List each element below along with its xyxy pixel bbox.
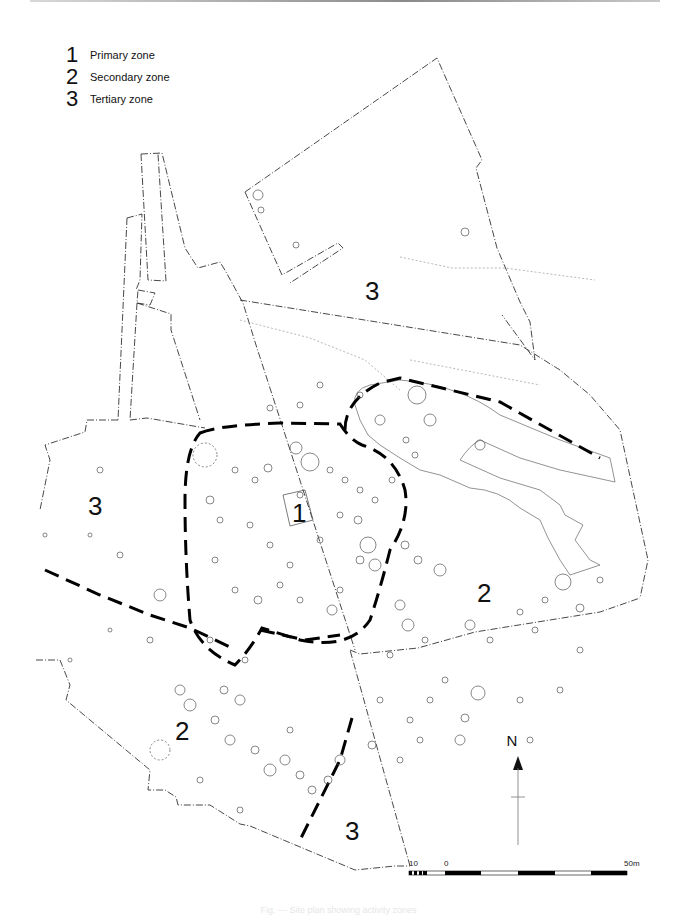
zone-label-3-west: 3	[88, 491, 102, 521]
scale-label-0: 0	[444, 859, 449, 868]
scale-bar: 10 0 50m	[409, 859, 640, 875]
zone-label-2-east: 2	[477, 578, 491, 608]
figure-caption: Fig. — Site plan showing activity zones	[0, 905, 677, 915]
zone-label-2-southwest: 2	[175, 716, 189, 746]
zone-boundaries	[45, 378, 600, 840]
archaeological-features	[43, 190, 603, 813]
north-arrow-icon	[513, 756, 523, 770]
north-arrow: N	[507, 732, 525, 845]
scale-label-10: 10	[409, 859, 418, 868]
site-plan: 3 3 1 2 2 3 N 10 0 50m	[0, 0, 677, 920]
zone-label-3-north: 3	[365, 276, 379, 306]
zone-label-3-south: 3	[345, 816, 359, 846]
contour-lines	[240, 257, 595, 390]
scale-label-50m: 50m	[624, 859, 640, 868]
north-label: N	[507, 732, 518, 749]
